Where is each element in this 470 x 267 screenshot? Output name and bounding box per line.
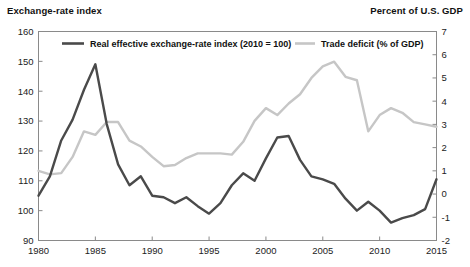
right-tick-label: 5	[442, 72, 447, 83]
right-tick-label: 3	[442, 119, 447, 130]
x-tick-label: 1985	[85, 245, 106, 256]
right-tick-label: -1	[442, 212, 450, 223]
series-line	[39, 64, 437, 222]
x-tick-label: 2015	[426, 245, 447, 256]
line-chart-plot: 90100110120130140150160 -2-101234567 198…	[0, 0, 470, 267]
x-tick-label: 1990	[142, 245, 163, 256]
x-tick-label: 2010	[369, 245, 390, 256]
chart-container: Exchange-rate index Percent of U.S. GDP …	[0, 0, 470, 267]
chart-legend: Real effective exchange-rate index (2010…	[62, 39, 424, 49]
left-tick-label: 140	[18, 86, 34, 97]
left-tick-label: 120	[18, 145, 34, 156]
legend-label: Trade deficit (% of GDP)	[321, 39, 424, 49]
right-tick-label: 2	[442, 142, 447, 153]
x-tick-label: 1980	[28, 245, 49, 256]
x-tick-label: 2005	[312, 245, 333, 256]
right-tick-label: 7	[442, 26, 447, 37]
left-tick-label: 100	[18, 205, 34, 216]
left-tick-label: 160	[18, 26, 34, 37]
right-tick-label: 0	[442, 188, 447, 199]
right-tick-label: 6	[442, 49, 447, 60]
left-tick-label: 110	[18, 175, 33, 186]
x-tick-label: 1995	[199, 245, 220, 256]
right-tick-label: 1	[442, 165, 447, 176]
right-axis-ticks: -2-101234567	[433, 26, 450, 246]
x-tick-label: 2000	[255, 245, 276, 256]
left-tick-label: 150	[18, 56, 34, 67]
left-tick-label: 130	[18, 115, 34, 126]
legend-label: Real effective exchange-rate index (2010…	[90, 39, 291, 49]
right-tick-label: 4	[442, 96, 447, 107]
x-axis-ticks: 19801985199019952000200520102015	[28, 237, 447, 256]
series-lines	[39, 62, 437, 223]
